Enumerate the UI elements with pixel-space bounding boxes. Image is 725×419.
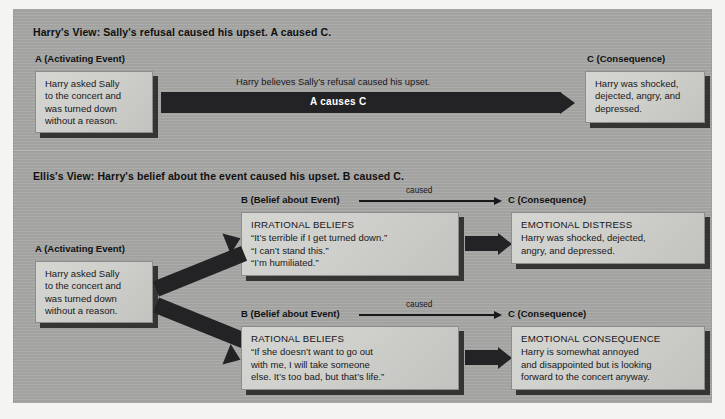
box-line: to the concert and bbox=[45, 90, 144, 102]
arrow-fork-upper-shaft bbox=[153, 246, 247, 296]
arrow-top-label: A causes C bbox=[310, 96, 367, 107]
box-line: “It’s terrible if I get turned down.” bbox=[251, 232, 450, 244]
box-line: “If she doesn’t want to go out bbox=[251, 346, 450, 358]
box-line: “I’m humiliated.” bbox=[251, 257, 450, 269]
box-line: “I can’t stand this.” bbox=[251, 245, 450, 257]
arrow-fork-lower-shaft bbox=[153, 298, 247, 348]
box-irrational-beliefs: IRRATIONAL BELIEFS “It’s terrible if I g… bbox=[241, 212, 459, 276]
box-line: Harry asked Sally bbox=[45, 78, 144, 90]
box-emotional-distress: EMOTIONAL DISTRESS Harry was shocked, de… bbox=[511, 212, 705, 264]
box-rational-beliefs: RATIONAL BELIEFS “If she doesn’t want to… bbox=[241, 326, 459, 390]
header-consequence-lower: C (Consequence) bbox=[508, 308, 586, 319]
box-heading: EMOTIONAL DISTRESS bbox=[521, 219, 696, 231]
box-emotional-consequence: EMOTIONAL CONSEQUENCE Harry is somewhat … bbox=[511, 326, 705, 390]
box-activating-event-bottom: Harry asked Sally to the concert and was… bbox=[35, 261, 153, 323]
arrow-top-caption: Harry believes Sally’s refusal caused hi… bbox=[236, 77, 430, 87]
arrow-belief-to-consequence-head bbox=[498, 347, 512, 369]
diagram-page: Harry's View: Sally's refusal caused his… bbox=[0, 0, 725, 419]
box-heading: EMOTIONAL CONSEQUENCE bbox=[521, 333, 696, 345]
header-activating-event-bottom: A (Activating Event) bbox=[35, 243, 125, 254]
box-line: without a reason. bbox=[45, 305, 144, 317]
box-line: dejected, angry, and bbox=[595, 90, 696, 102]
box-line: Harry is somewhat annoyed bbox=[521, 346, 696, 358]
box-line: to the concert and bbox=[45, 280, 144, 292]
box-line: was turned down bbox=[45, 103, 144, 115]
header-activating-event-top: A (Activating Event) bbox=[35, 53, 125, 64]
box-line: without a reason. bbox=[45, 115, 144, 127]
box-line: depressed. bbox=[595, 103, 696, 115]
arrow-a-causes-c-head bbox=[560, 92, 575, 114]
caused-arrowhead-upper bbox=[494, 197, 502, 205]
section-divider bbox=[13, 150, 712, 152]
box-line: and disappointed but is looking bbox=[521, 359, 696, 371]
caused-label-upper: caused bbox=[406, 186, 432, 195]
box-line: else. It’s too bad, but that’s life.” bbox=[251, 371, 450, 383]
header-belief-upper: B (Belief about Event) bbox=[241, 194, 340, 205]
box-line: with me, I will take someone bbox=[251, 359, 450, 371]
box-line: Harry asked Sally bbox=[45, 268, 144, 280]
box-activating-event-top: Harry asked Sally to the concert and was… bbox=[35, 71, 153, 133]
box-consequence-top: Harry was shocked, dejected, angry, and … bbox=[585, 71, 705, 123]
caused-arrowhead-lower bbox=[494, 311, 502, 319]
arrow-belief-to-distress-shaft bbox=[465, 236, 499, 251]
caused-label-lower: caused bbox=[406, 300, 432, 309]
box-line: Harry was shocked, dejected, bbox=[521, 232, 696, 244]
arrow-belief-to-consequence-shaft bbox=[465, 350, 499, 365]
box-heading: IRRATIONAL BELIEFS bbox=[251, 219, 450, 231]
header-consequence-top: C (Consequence) bbox=[587, 53, 665, 64]
box-line: angry, and depressed. bbox=[521, 245, 696, 257]
box-line: was turned down bbox=[45, 293, 144, 305]
caused-line-upper bbox=[359, 200, 495, 202]
arrow-belief-to-distress-head bbox=[498, 233, 512, 255]
harrys-view-title: Harry's View: Sally's refusal caused his… bbox=[33, 26, 331, 38]
caused-line-lower bbox=[359, 314, 495, 316]
elliss-view-title: Ellis's View: Harry's belief about the e… bbox=[33, 170, 404, 182]
header-consequence-upper: C (Consequence) bbox=[508, 194, 586, 205]
header-belief-lower: B (Belief about Event) bbox=[241, 308, 340, 319]
box-line: forward to the concert anyway. bbox=[521, 371, 696, 383]
diagram-panel: Harry's View: Sally's refusal caused his… bbox=[13, 9, 712, 403]
box-line: Harry was shocked, bbox=[595, 78, 696, 90]
box-heading: RATIONAL BELIEFS bbox=[251, 333, 450, 345]
